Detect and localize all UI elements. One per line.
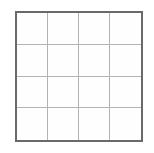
- grid-cell[interactable]: [48, 108, 79, 140]
- grid-cell[interactable]: [48, 77, 79, 109]
- grid-cell[interactable]: [79, 77, 110, 109]
- grid-cell[interactable]: [17, 77, 48, 109]
- grid-cell[interactable]: [17, 45, 48, 77]
- grid-cell[interactable]: [48, 13, 79, 45]
- grid-cell[interactable]: [79, 13, 110, 45]
- grid-cell[interactable]: [110, 108, 141, 140]
- grid-cell[interactable]: [17, 13, 48, 45]
- grid-cell[interactable]: [110, 77, 141, 109]
- grid-cell[interactable]: [48, 45, 79, 77]
- grid-cell[interactable]: [110, 45, 141, 77]
- grid-cell[interactable]: [17, 108, 48, 140]
- grid: [15, 11, 143, 142]
- canvas: [0, 0, 154, 153]
- grid-cell[interactable]: [79, 108, 110, 140]
- grid-cell[interactable]: [110, 13, 141, 45]
- grid-cell[interactable]: [79, 45, 110, 77]
